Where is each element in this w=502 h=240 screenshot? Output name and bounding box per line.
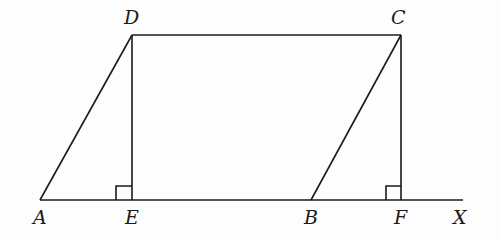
label-e: E bbox=[124, 206, 139, 228]
right-angle-mark-e bbox=[116, 186, 132, 200]
segment-ad bbox=[40, 35, 132, 200]
label-f: F bbox=[393, 206, 408, 228]
label-x: X bbox=[451, 206, 468, 228]
label-d: D bbox=[123, 6, 139, 28]
label-b: B bbox=[303, 206, 318, 228]
label-a: A bbox=[31, 206, 47, 228]
segment-bc bbox=[311, 35, 401, 200]
right-angle-mark-f bbox=[386, 186, 401, 200]
geometry-diagram: D C A E B F X bbox=[0, 0, 502, 240]
label-c: C bbox=[391, 6, 406, 28]
